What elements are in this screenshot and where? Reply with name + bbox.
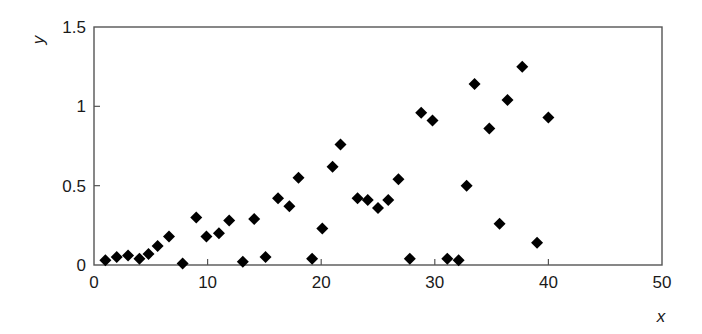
diamond-marker [306,253,318,265]
scatter-chart: 01020304050 00.511.5 x y [0,0,702,334]
diamond-marker [352,192,364,204]
diamond-marker [372,202,384,214]
diamond-marker [362,194,374,206]
data-points [99,61,554,270]
y-tick-label: 0 [77,256,86,275]
diamond-marker [223,215,235,227]
x-tick-label: 30 [425,273,444,292]
y-axis-label: y [29,34,48,45]
diamond-marker [427,115,439,127]
x-tick-label: 40 [539,273,558,292]
diamond-marker [531,237,543,249]
diamond-marker [283,200,295,212]
diamond-marker [441,253,453,265]
x-axis-ticks: 01020304050 [89,259,671,292]
diamond-marker [516,61,528,73]
plot-frame [94,27,662,265]
diamond-marker [404,253,416,265]
diamond-marker [122,249,134,261]
diamond-marker [327,161,339,173]
diamond-marker [415,107,427,119]
diamond-marker [260,251,272,263]
diamond-marker [248,213,260,225]
diamond-marker [483,123,495,135]
x-tick-label: 50 [653,273,672,292]
y-tick-label: 1 [77,97,86,116]
diamond-marker [200,230,212,242]
diamond-marker [272,192,284,204]
diamond-marker [542,111,554,123]
x-tick-label: 0 [89,273,98,292]
diamond-marker [502,94,514,106]
diamond-marker [292,172,304,184]
diamond-marker [163,230,175,242]
diamond-marker [392,173,404,185]
y-tick-label: 1.5 [62,18,86,37]
diamond-marker [237,256,249,268]
diamond-marker [213,227,225,239]
diamond-marker [335,138,347,150]
diamond-marker [316,223,328,235]
plot-border [94,27,662,265]
diamond-marker [152,240,164,252]
diamond-marker [494,218,506,230]
diamond-marker [111,251,123,263]
diamond-marker [469,78,481,90]
x-tick-label: 10 [198,273,217,292]
diamond-marker [190,211,202,223]
y-tick-label: 0.5 [62,177,86,196]
x-tick-label: 20 [312,273,331,292]
diamond-marker [177,257,189,269]
x-axis-label: x [656,307,666,326]
diamond-marker [461,180,473,192]
diamond-marker [382,194,394,206]
